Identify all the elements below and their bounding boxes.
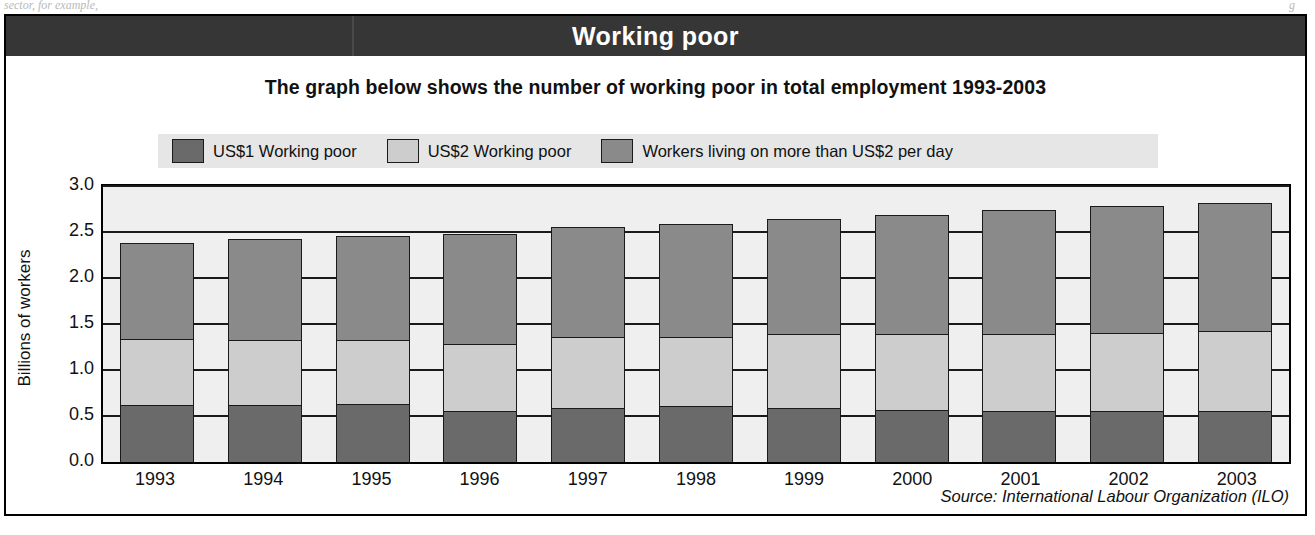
bar-segment [1090,411,1164,462]
y-axis-tick-label: 3.0 [34,175,94,193]
x-axis-tick-label: 1994 [226,464,300,490]
bar-2000[interactable] [875,215,949,462]
x-axis-tick-label: 1993 [118,464,192,490]
legend-item[interactable]: Workers living on more than US$2 per day [601,139,953,163]
bar-segment [443,234,517,344]
bar-segment [336,236,410,340]
y-axis-tick-label: 2.0 [34,267,94,285]
chart-subtitle: The graph below shows the number of work… [6,76,1305,99]
scan-bleed-left: sector, for example, [4,0,98,13]
y-axis-tick-label: 1.5 [34,313,94,331]
y-axis-tick-label: 1.0 [34,359,94,377]
y-axis-tick-label: 2.5 [34,221,94,239]
bar-segment [443,344,517,411]
x-axis-tick-label: 1999 [767,464,841,490]
bar-segment [875,215,949,335]
bar-segment [659,406,733,462]
legend-item-label: US$1 Working poor [213,142,357,161]
legend-item-label: Workers living on more than US$2 per day [642,142,953,161]
y-axis-ticks: 0.00.51.01.52.02.53.0 [28,168,94,464]
bar-segment [982,411,1056,462]
bar-1998[interactable] [659,224,733,462]
bar-segment [120,243,194,339]
bar-segment [767,219,841,334]
bar-segment [551,337,625,408]
plot-area [101,184,1291,464]
legend-swatch-icon [601,139,633,163]
bar-segment [1198,203,1272,332]
bar-1995[interactable] [336,236,410,462]
page-title: Working poor [572,22,739,51]
bar-segment [1090,206,1164,333]
bar-segment [551,227,625,336]
bar-2003[interactable] [1198,203,1272,462]
banner-seam [352,16,354,56]
x-axis-tick-label: 2000 [875,464,949,490]
y-axis-tick-label: 0.0 [34,451,94,469]
bar-segment [1198,331,1272,411]
bar-segment [1090,333,1164,411]
scan-bleed-right: g [1289,0,1295,13]
bar-1999[interactable] [767,219,841,462]
bar-1997[interactable] [551,227,625,462]
bar-segment [982,210,1056,334]
bar-segment [767,408,841,462]
bar-2002[interactable] [1090,206,1164,462]
bar-segment [982,334,1056,411]
bar-segment [120,405,194,462]
title-banner: Working poor [6,16,1305,56]
bar-segment [228,340,302,405]
bar-segment [443,411,517,462]
bar-segment [1198,411,1272,462]
y-axis-tick-label: 0.5 [34,405,94,423]
x-axis-tick-label: 1996 [443,464,517,490]
bar-segment [875,410,949,462]
bar-segment [659,224,733,337]
bar-segment [336,340,410,404]
scan-bleed-text: sector, for example, g [0,0,1315,14]
x-axis-tick-label: 1995 [334,464,408,490]
legend-item-label: US$2 Working poor [428,142,572,161]
bar-segment [120,339,194,405]
bar-1996[interactable] [443,234,517,462]
x-axis-tick-label: 1998 [659,464,733,490]
bar-segment [875,334,949,410]
source-note: Source: International Labour Organizatio… [940,487,1289,506]
legend-item[interactable]: US$1 Working poor [172,139,357,163]
bar-segment [228,405,302,462]
bar-segment [336,404,410,462]
bar-segment [551,408,625,462]
chart-legend: US$1 Working poorUS$2 Working poorWorker… [158,134,1158,168]
bar-1994[interactable] [228,239,302,462]
legend-swatch-icon [387,139,419,163]
legend-swatch-icon [172,139,204,163]
bar-segment [659,337,733,406]
bar-1993[interactable] [120,243,194,462]
bar-group [103,186,1289,462]
bar-2001[interactable] [982,210,1056,462]
legend-item[interactable]: US$2 Working poor [387,139,572,163]
bar-segment [767,334,841,408]
x-axis-tick-label: 1997 [551,464,625,490]
chart-area: Billions of workers 0.00.51.01.52.02.53.… [6,168,1305,514]
chart-figure: Working poor The graph below shows the n… [4,14,1307,516]
bar-segment [228,239,302,339]
